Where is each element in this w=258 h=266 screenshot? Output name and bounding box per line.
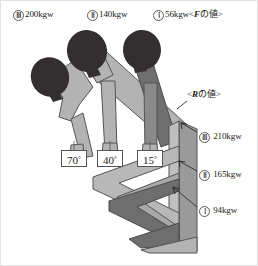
angle-value-40: 40 (103, 154, 114, 166)
top-value-3: 200kgw (25, 9, 53, 19)
f-caption-rest: の値> (200, 9, 223, 19)
degree-symbol-40: ° (114, 155, 117, 163)
right-label-1: Ⅰ 94kgw (199, 205, 237, 217)
angle-value-70: 70 (67, 154, 78, 166)
degree-symbol-70: ° (78, 155, 81, 163)
right-value-2: 165kgw (213, 169, 241, 179)
angle-box-40: 40° (97, 150, 123, 167)
right-value-1: 94kgw (213, 205, 237, 215)
leader-arrow-r-title (177, 101, 187, 109)
angle-box-15: 15° (137, 150, 163, 167)
right-value-3: 210kgw (213, 131, 241, 141)
right-label-2: Ⅱ 165kgw (199, 169, 242, 181)
roman-numeral-2-right-icon: Ⅱ (199, 170, 210, 181)
roman-numeral-1-icon: Ⅰ (153, 10, 164, 21)
angle-value-15: 15 (143, 154, 154, 166)
figure-40-leg (101, 81, 117, 153)
figure-15-leg (144, 83, 157, 153)
support-column-face (179, 121, 197, 251)
top-label-3: Ⅲ200kgw (13, 9, 53, 21)
right-label-3: Ⅲ 210kgw (199, 131, 242, 143)
roman-numeral-3-right-icon: Ⅲ (199, 132, 210, 143)
r-caption-rest: の値> (198, 89, 221, 99)
top-label-1: Ⅰ56kgw<Fの値> (153, 9, 223, 21)
top-label-row: Ⅲ200kgw Ⅱ140kgw Ⅰ56kgw<Fの値> (1, 9, 258, 23)
top-label-2: Ⅱ140kgw (87, 9, 127, 21)
angle-box-70: 70° (61, 150, 87, 167)
roman-numeral-1-right-icon: Ⅰ (199, 206, 210, 217)
top-value-1: 56kgw (165, 9, 189, 19)
figure-frame: Ⅲ200kgw Ⅱ140kgw Ⅰ56kgw<Fの値> <Rの値> Ⅲ 210k… (0, 0, 258, 266)
roman-numeral-3-icon: Ⅲ (13, 10, 24, 21)
roman-numeral-2-icon: Ⅱ (87, 10, 98, 21)
r-value-caption: <Rの値> (187, 89, 221, 99)
top-value-2: 140kgw (99, 9, 127, 19)
degree-symbol-15: ° (154, 155, 157, 163)
